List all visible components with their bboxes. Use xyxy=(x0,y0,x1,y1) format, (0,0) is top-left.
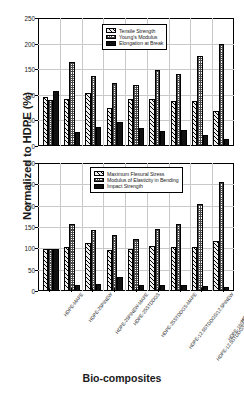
y-axis-title: Normalized to HDPE (%) xyxy=(21,76,33,236)
y-axis-tick-label: 100 xyxy=(24,91,35,98)
bar xyxy=(160,131,165,146)
y-axis-tick-label: 250 xyxy=(24,181,35,188)
bar xyxy=(219,182,224,291)
legend-swatch xyxy=(106,41,116,46)
y-axis-tick-mark xyxy=(35,146,38,147)
y-axis-tick-label: 50 xyxy=(28,266,35,273)
x-axis-tick-mark xyxy=(223,288,224,292)
bar xyxy=(224,139,229,146)
bar xyxy=(96,284,101,291)
bar-chart-figure: Normalized to HDPE (%) 050100150200250 T… xyxy=(0,0,244,394)
chart-panel-top: 050100150200250 Tensile StrengthYoung's … xyxy=(38,18,234,146)
y-axis-tick-label: 150 xyxy=(24,224,35,231)
bar xyxy=(139,285,144,291)
bar-group xyxy=(43,163,59,291)
bar xyxy=(91,230,96,291)
legend-label: Maximum Flexural Stress xyxy=(107,171,164,177)
x-axis-tick-mark xyxy=(71,288,72,292)
bar xyxy=(203,135,208,146)
legend-swatch xyxy=(94,184,104,189)
legend-label: Tensile Strength xyxy=(119,28,155,34)
x-axis-tick-mark xyxy=(49,288,50,292)
x-axis-tick-mark xyxy=(114,288,115,292)
legend-bottom: Maximum Flexural StressModulus of Elasti… xyxy=(90,167,183,193)
bar-group xyxy=(85,18,101,146)
x-axis-title: Bio-composites xyxy=(0,372,244,384)
x-axis-tick-mark xyxy=(158,288,159,292)
y-axis-tick-label: 150 xyxy=(24,66,35,73)
legend-item: Impact Strength xyxy=(94,183,179,189)
bar xyxy=(160,285,165,291)
x-axis-tick-label: HDPE-25STDDGS-MAPE xyxy=(160,292,198,338)
bar xyxy=(155,229,160,291)
y-axis-tick-label: 250 xyxy=(24,15,35,22)
bar xyxy=(133,239,138,291)
bar-group xyxy=(171,18,187,146)
x-axis-tick-mark xyxy=(180,288,181,292)
bar xyxy=(117,277,122,292)
x-axis-tick-label: HDPE-12.5STDDGS/12.5PINEW xyxy=(187,292,234,350)
bar xyxy=(139,128,144,146)
bar xyxy=(181,130,186,146)
y-axis-tick-label: 300 xyxy=(24,160,35,167)
x-axis-tick-label: HDPE-25PINEW xyxy=(87,292,113,323)
bar xyxy=(69,224,74,291)
x-axis-tick-label: HDPE-40PINEW xyxy=(240,292,244,323)
legend-item: Tensile Strength xyxy=(106,28,163,34)
legend-label: Modulus of Elasticity in Bending xyxy=(107,177,179,183)
bar xyxy=(224,287,229,291)
legend-label: Young's Modulus xyxy=(119,34,157,40)
legend-item: Elongation at Break xyxy=(106,40,163,46)
x-axis-tick-mark xyxy=(92,288,93,292)
x-axis-tick-mark xyxy=(136,288,137,292)
bar xyxy=(53,91,58,146)
legend-label: Impact Strength xyxy=(107,183,143,189)
bar-group xyxy=(64,18,80,146)
legend-item: Modulus of Elasticity in Bending xyxy=(94,177,179,183)
x-axis-labels: HDPE-MAPEHDPE-25PINEWHDPE-25PINEW-MAPEHD… xyxy=(38,292,234,370)
bar-group xyxy=(64,163,80,291)
bar xyxy=(176,224,181,291)
bar xyxy=(96,127,101,146)
legend-swatch xyxy=(94,171,104,176)
bar xyxy=(181,285,186,291)
y-axis-tick-label: 100 xyxy=(24,245,35,252)
legend-top: Tensile StrengthYoung's ModulusElongatio… xyxy=(102,24,167,50)
legend-item: Young's Modulus xyxy=(106,34,163,40)
x-axis-tick-label: HDPE-MAPE xyxy=(63,292,84,317)
bar xyxy=(219,44,224,146)
y-axis-tick-label: 200 xyxy=(24,202,35,209)
y-axis-tick-label: 200 xyxy=(24,40,35,47)
bar-group xyxy=(213,18,229,146)
bar-group xyxy=(213,163,229,291)
bar xyxy=(53,249,58,291)
bar xyxy=(197,204,202,291)
bar xyxy=(203,286,208,291)
legend-label: Elongation at Break xyxy=(119,40,163,46)
chart-panel-bottom: 050100150200250300 Maximum Flexural Stre… xyxy=(38,163,234,291)
legend-swatch xyxy=(94,178,104,183)
bar-group xyxy=(192,18,208,146)
x-axis-tick-mark xyxy=(201,288,202,292)
legend-swatch xyxy=(106,35,116,40)
bar xyxy=(75,132,80,146)
bar-group xyxy=(43,18,59,146)
bar xyxy=(117,122,122,146)
bar-group xyxy=(192,163,208,291)
bar xyxy=(75,285,80,291)
legend-swatch xyxy=(106,28,116,33)
bar xyxy=(197,56,202,146)
y-axis-tick-label: 50 xyxy=(28,117,35,124)
